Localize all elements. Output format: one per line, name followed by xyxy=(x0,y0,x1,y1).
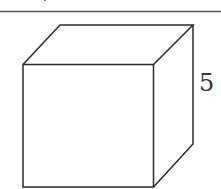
cube-figure: 5 xyxy=(0,0,221,189)
cube-right-face xyxy=(154,25,194,187)
cube-diagram: . 5 xyxy=(0,0,221,189)
edge-length-label: 5 xyxy=(199,69,214,97)
cube-top-face xyxy=(23,25,193,65)
cube-front-face xyxy=(23,65,154,188)
